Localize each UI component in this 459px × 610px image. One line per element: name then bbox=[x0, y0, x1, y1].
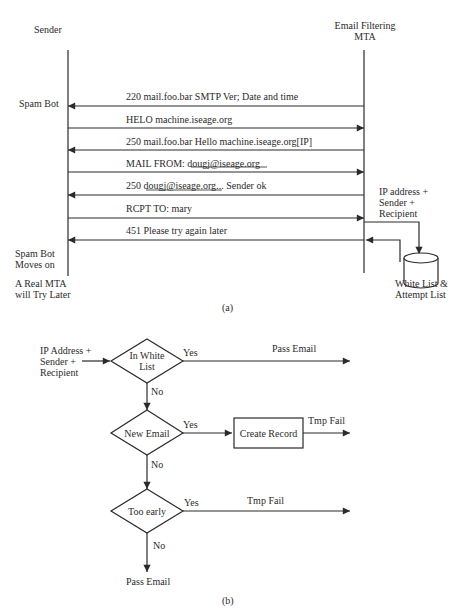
sender-label: Sender bbox=[34, 24, 62, 35]
pass-email-outcome: Pass Email bbox=[272, 343, 316, 354]
tmp-fail-outcome-1: Tmp Fail bbox=[308, 415, 345, 426]
decision-new-email-label: New Email bbox=[112, 428, 182, 439]
lookup-label: IP address + Sender + Recipient bbox=[379, 186, 428, 219]
message-451: 451 Please try again later bbox=[126, 225, 227, 236]
mta-label: Email Filtering MTA bbox=[330, 20, 400, 42]
database-label: White List & Attempt List bbox=[395, 278, 448, 300]
yes-label-2: Yes bbox=[183, 419, 198, 430]
yes-label-3: Yes bbox=[184, 497, 199, 508]
message-220: 220 mail.foo.bar SMTP Ver; Date and time bbox=[126, 91, 298, 102]
caption-b: (b) bbox=[222, 595, 234, 606]
input-label: IP Address + Sender + Recipient bbox=[40, 345, 91, 378]
no-label-2: No bbox=[151, 459, 163, 470]
spam-bot-moves-on-label: Spam Bot Moves on bbox=[15, 248, 55, 270]
no-label-1: No bbox=[151, 386, 163, 397]
message-helo: HELO machine.iseage.org bbox=[126, 114, 232, 125]
decision-in-white-list-label: In White List bbox=[117, 350, 177, 372]
decision-too-early-label: Too early bbox=[112, 506, 182, 517]
spam-bot-label: Spam Bot bbox=[19, 98, 59, 109]
pass-email-final: Pass Email bbox=[126, 576, 170, 587]
message-rcpt-to: RCPT TO: mary bbox=[126, 203, 192, 214]
real-mta-label: A Real MTA will Try Later bbox=[15, 278, 71, 300]
create-record-label: Create Record bbox=[234, 428, 303, 439]
no-label-3: No bbox=[153, 540, 165, 551]
yes-label-1: Yes bbox=[183, 347, 198, 358]
tmp-fail-outcome-2: Tmp Fail bbox=[247, 495, 284, 506]
message-250-hello: 250 mail.foo.bar Hello machine.iseage.or… bbox=[126, 136, 312, 147]
message-mail-from: MAIL FROM: dougj@iseage.org bbox=[126, 158, 260, 169]
db-response-arrow bbox=[366, 240, 400, 262]
message-250-sender-ok: 250 dougj@iseage.org... Sender ok bbox=[126, 180, 266, 191]
lookup-arrow bbox=[364, 222, 419, 254]
caption-a: (a) bbox=[222, 302, 233, 313]
